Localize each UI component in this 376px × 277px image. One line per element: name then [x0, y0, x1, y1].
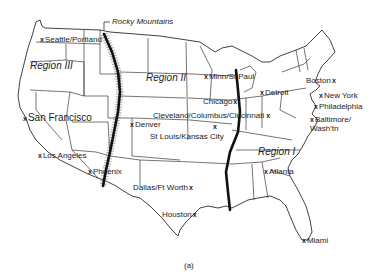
city-marker-icon: x [38, 152, 42, 159]
city-minn-st-paul: xMinn/St Paul [204, 72, 254, 81]
city-st-louis-kansas-city-marker: x [213, 122, 218, 131]
city-marker-icon: x [233, 98, 237, 105]
city-marker-icon: x [23, 115, 27, 122]
figure-caption: (a) [184, 261, 194, 270]
city-chicago: Chicagox [203, 97, 238, 106]
city-marker-icon: x [310, 116, 314, 123]
city-seattle-portland: xSeattle/Portland [40, 35, 102, 44]
city-marker-icon: x [266, 112, 270, 119]
city-cleveland-columbus-cincinnati: Cleveland/Columbus/Cincinnatix [153, 111, 271, 120]
city-philadelphia: xPhiladelphia [314, 102, 363, 111]
city-marker-icon: x [130, 121, 134, 128]
city-marker-icon: x [332, 77, 336, 84]
region-3-label: Region III [30, 60, 73, 71]
city-baltimore-washington: xBaltimore/ Wash'tn [310, 115, 354, 133]
rocky-callout-line [104, 22, 110, 30]
city-boston: Bostonx [306, 76, 337, 85]
city-marker-icon: x [302, 237, 306, 244]
city-marker-icon: x [88, 168, 92, 175]
region-1-label: Region I [258, 146, 295, 157]
city-marker-icon: x [260, 89, 264, 96]
city-marker-icon: x [189, 184, 193, 191]
city-marker-icon: x [40, 36, 44, 43]
city-atlanta: xAtlanta [264, 167, 294, 176]
city-marker-icon: x [193, 211, 197, 218]
city-phoenix: xPhoenix [88, 167, 122, 176]
city-denver: xDenver [130, 120, 161, 129]
city-los-angeles: xLos Angeles [38, 151, 87, 160]
us-region-map: Rocky Mountains Region III Region II Reg… [0, 0, 376, 277]
city-marker-icon: x [319, 92, 323, 99]
city-marker-icon: x [314, 103, 318, 110]
city-marker-icon: x [213, 123, 217, 130]
city-detroit: xDetroit [260, 88, 288, 97]
region-2-label: Region II [146, 72, 186, 83]
city-dallas-ft-worth: Dallas/Ft Worthx [133, 183, 194, 192]
city-st-louis-kansas-city: St Louis/Kansas City [150, 132, 224, 141]
rocky-mountains-label: Rocky Mountains [112, 17, 173, 26]
city-miami: xMiami [302, 236, 328, 245]
city-san-francisco: xSan Francisco [23, 113, 92, 123]
city-marker-icon: x [204, 73, 208, 80]
us-coastline [18, 20, 335, 240]
city-houston: Houstonx [162, 210, 198, 219]
city-new-york: xNew York [319, 91, 358, 100]
city-marker-icon: x [264, 168, 268, 175]
